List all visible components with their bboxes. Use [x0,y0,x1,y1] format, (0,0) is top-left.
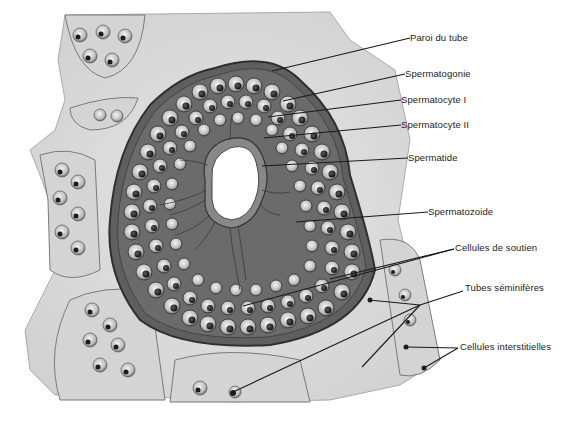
label-tubes-seminiferes: Tubes séminifères [465,283,544,293]
seminiferous-tubule-diagram: Paroi du tube Spermatogonie Spermatocyte… [0,0,564,422]
label-spermatide: Spermatide [408,153,458,163]
label-spermatocyte-1: Spermatocyte I [401,95,466,105]
label-spermatogonie: Spermatogonie [405,69,471,79]
label-paroi-du-tube: Paroi du tube [410,33,468,43]
label-cellules-interstitielles: Cellules interstitielles [460,342,551,352]
label-cellules-de-soutien: Cellules de soutien [455,243,537,253]
label-spermatocyte-2: Spermatocyte II [401,120,469,130]
label-spermatozoide: Spermatozoide [428,207,493,217]
